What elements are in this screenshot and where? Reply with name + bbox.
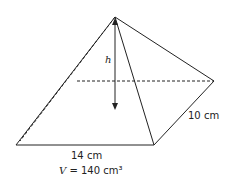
width-label: 10 cm [188, 110, 219, 121]
arrowhead-down-icon [112, 103, 118, 110]
pyramid-drawing [0, 0, 228, 185]
volume-value: = 140 cm³ [69, 165, 122, 176]
back-lateral-edge [115, 17, 214, 81]
length-label: 14 cm [71, 150, 102, 161]
height-label: h [105, 54, 111, 65]
left-lateral-edge [16, 17, 115, 145]
volume-label: V = 140 cm³ [59, 165, 123, 176]
volume-variable: V [59, 165, 66, 176]
pyramid-figure: h 10 cm 14 cm V = 140 cm³ [0, 0, 228, 185]
